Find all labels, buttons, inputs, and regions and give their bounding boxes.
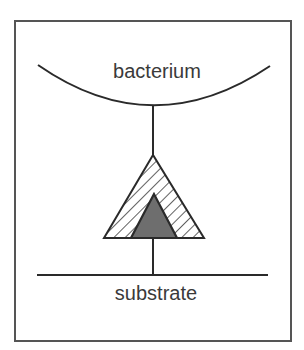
bacterium-substrate-diagram: bacterium substrate <box>0 0 304 350</box>
substrate-label: substrate <box>115 282 197 304</box>
bacterium-label: bacterium <box>113 60 201 82</box>
